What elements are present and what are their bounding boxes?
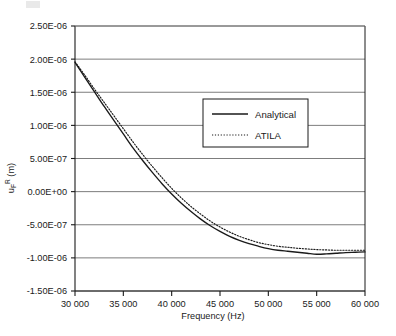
y-axis-title-text: uFR (m) <box>4 163 17 193</box>
scan-artifact <box>26 1 40 8</box>
y-tick-label: -1.50E-06 <box>27 286 67 296</box>
legend-label-analytical: Analytical <box>255 109 296 120</box>
y-tick-label: 1.50E-06 <box>30 88 67 98</box>
legend-label-atila: ATILA <box>255 130 282 141</box>
y-axis-title-unit: (m) <box>6 163 16 179</box>
x-tick-label: 55 000 <box>303 299 331 309</box>
x-tick-label: 60 000 <box>351 299 379 309</box>
x-axis-title: Frequency (Hz) <box>181 311 244 321</box>
y-tick-label: 1.00E-06 <box>30 121 67 131</box>
y-axis-title: uFR (m) <box>4 163 17 193</box>
y-tick-label: 2.50E-06 <box>30 21 67 31</box>
y-tick-label: 2.00E-06 <box>30 55 67 65</box>
x-tick-label: 30 000 <box>61 299 89 309</box>
y-axis-title-subscript: F <box>10 184 17 188</box>
x-tick-label: 50 000 <box>254 299 282 309</box>
x-tick-label: 40 000 <box>158 299 186 309</box>
x-tick-label: 35 000 <box>109 299 137 309</box>
y-tick-label: 5.00E-07 <box>30 154 67 164</box>
chart-legend: AnalyticalATILA <box>203 99 308 147</box>
y-tick-label: -5.00E-07 <box>27 220 67 230</box>
y-tick-labels: 2.50E-062.00E-061.50E-061.00E-065.00E-07… <box>27 21 67 296</box>
frequency-response-chart: 2.50E-062.00E-061.50E-061.00E-065.00E-07… <box>0 0 396 336</box>
chart-container: 2.50E-062.00E-061.50E-061.00E-065.00E-07… <box>0 0 396 336</box>
y-tick-label: 0.00E+00 <box>27 187 67 197</box>
x-tick-label: 45 000 <box>206 299 234 309</box>
y-tick-label: -1.00E-06 <box>27 253 67 263</box>
